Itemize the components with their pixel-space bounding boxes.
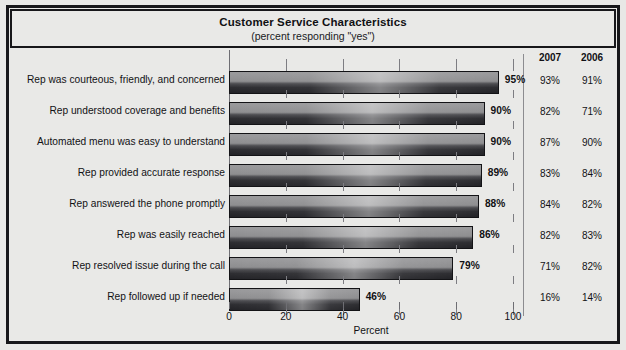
row-label: Automated menu was easy to understand [37,136,225,147]
chart-figure: Customer Service Characteristics (percen… [0,0,626,350]
gridline-tick [399,214,400,222]
gridline-tick [513,245,514,253]
row-label: Rep understood coverage and benefits [49,105,225,116]
gridline-tick [399,245,400,253]
gridline-tick [343,121,344,129]
chart-row: Rep was easily reached86%82%83% [10,223,616,254]
gridline-tick [513,276,514,284]
bar-value-label: 46% [366,291,386,302]
gridline-tick [399,59,400,71]
bar [229,226,473,249]
x-tick [343,302,344,309]
bar [229,195,479,218]
row-label: Rep answered the phone promptly [69,198,225,209]
row-label: Rep was courteous, friendly, and concern… [27,74,225,85]
plot-region: 2007 2006 Rep was courteous, friendly, a… [10,50,616,339]
gridline-tick [456,183,457,191]
gridline-tick [286,183,287,191]
gridline-tick [343,214,344,222]
x-axis-label: Percent [229,325,513,336]
gridline-tick [456,59,457,71]
chart-row: Rep answered the phone promptly88%84%82% [10,192,616,223]
table-cell-2006: 83% [572,230,612,241]
bar-value-label: 89% [488,167,508,178]
table-cell-2007: 93% [530,75,570,86]
title-panel: Customer Service Characteristics (percen… [10,9,616,48]
bar-value-label: 90% [491,105,511,116]
gridline-tick [399,90,400,98]
bar [229,71,499,94]
bar-track [229,194,513,219]
row-label: Rep provided accurate response [78,167,225,178]
gridline-tick [343,276,344,284]
bar-value-label: 88% [485,198,505,209]
table-cell-2006: 71% [572,106,612,117]
chart-row: Rep resolved issue during the call79%71%… [10,254,616,285]
bar-value-label: 79% [459,260,479,271]
gridline-tick [456,121,457,129]
gridline-tick [456,90,457,98]
bar-value-label: 90% [491,136,511,147]
table-cell-2007: 83% [530,168,570,179]
gridline-tick [513,214,514,222]
chart-row: Automated menu was easy to understand90%… [10,130,616,161]
gridline-tick [286,59,287,71]
gridline-tick [513,90,514,98]
gridline-tick [513,183,514,191]
table-cell-2006: 82% [572,261,612,272]
bar-track [229,132,513,157]
gridline-tick [286,152,287,160]
gridline-tick [399,276,400,284]
row-label: Rep was easily reached [117,229,225,240]
gridline-tick [399,121,400,129]
row-label: Rep followed up if needed [107,291,225,302]
column-header-2007: 2007 [530,52,570,63]
bar [229,257,453,280]
bar [229,164,482,187]
gridline-tick [286,90,287,98]
chart-title: Customer Service Characteristics [219,15,406,29]
x-tick-label: 100 [493,311,533,322]
gridline-tick [343,90,344,98]
x-tick-label: 80 [436,311,476,322]
bar-track [229,163,513,188]
x-tick [513,302,514,309]
table-cell-2006: 84% [572,168,612,179]
table-cell-2007: 87% [530,137,570,148]
gridline-tick [456,245,457,253]
x-tick-label: 60 [379,311,419,322]
chart-row: Rep provided accurate response89%83%84% [10,161,616,192]
column-header-2006: 2006 [572,52,612,63]
x-tick-label: 20 [266,311,306,322]
table-cell-2007: 71% [530,261,570,272]
x-tick [229,302,230,309]
gridline-tick [399,183,400,191]
gridline-tick [286,245,287,253]
gridline-tick [456,152,457,160]
table-cell-2006: 82% [572,199,612,210]
bar-track [229,225,513,250]
gridline-tick [399,152,400,160]
table-cell-2006: 90% [572,137,612,148]
bar [229,102,485,125]
gridline-tick [343,59,344,71]
bar [229,133,485,156]
chart-subtitle: (percent responding "yes") [251,29,375,43]
x-tick [456,302,457,309]
gridline-tick [343,183,344,191]
x-axis: 020406080100 Percent [10,302,616,338]
gridline-tick [456,214,457,222]
gridline-tick [513,121,514,129]
bar-value-label: 95% [505,74,525,85]
gridline-tick [286,214,287,222]
gridline-tick [343,152,344,160]
gridline-tick [513,152,514,160]
chart-row: Rep was courteous, friendly, and concern… [10,68,616,99]
gridline-tick [456,276,457,284]
x-tick-label: 0 [209,311,249,322]
x-tick [399,302,400,309]
row-label: Rep resolved issue during the call [72,260,225,271]
gridline-tick [513,59,514,71]
bar-value-label: 86% [479,229,499,240]
gridline-tick [343,245,344,253]
